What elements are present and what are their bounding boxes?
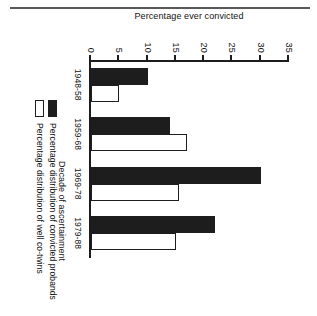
legend-item-probands: Percentage distribution of convicted pro… bbox=[48, 100, 58, 300]
bar-group bbox=[91, 216, 289, 250]
category-label: 1969-78 bbox=[73, 168, 83, 200]
bar bbox=[91, 134, 187, 151]
bar bbox=[91, 184, 179, 201]
bar-group bbox=[91, 68, 289, 102]
legend-label-probands: Percentage distribution of convicted pro… bbox=[48, 123, 58, 300]
y-tick bbox=[89, 55, 91, 60]
y-tick-label: 5 bbox=[114, 48, 124, 53]
y-tick bbox=[202, 55, 204, 60]
y-tick-label: 25 bbox=[227, 43, 237, 53]
bar bbox=[91, 167, 261, 184]
bar bbox=[91, 216, 215, 233]
y-tick bbox=[173, 55, 175, 60]
bar-group bbox=[91, 117, 289, 151]
bar bbox=[91, 68, 148, 85]
x-axis-title: Decade of ascertainment bbox=[57, 161, 67, 261]
y-axis-title: Percentage ever convicted bbox=[134, 11, 243, 21]
y-tick bbox=[145, 55, 147, 60]
y-tick bbox=[230, 55, 232, 60]
y-tick bbox=[258, 55, 260, 60]
legend-swatch-filled-icon bbox=[48, 100, 57, 117]
legend-item-cotwins: Percentage distribution of well co-twins bbox=[35, 100, 45, 300]
legend-label-cotwins: Percentage distribution of well co-twins bbox=[35, 123, 45, 274]
y-tick-label: 35 bbox=[284, 43, 294, 53]
category-label: 1959-68 bbox=[73, 118, 83, 150]
y-tick-label: 15 bbox=[170, 43, 180, 53]
chart-legend: Percentage distribution of convicted pro… bbox=[32, 100, 58, 300]
y-tick-label: 10 bbox=[142, 43, 152, 53]
rotated-figure-wrapper: 05101520253035 1948-581959-681969-781979… bbox=[13, 8, 305, 308]
category-label: 1979-88 bbox=[73, 217, 83, 249]
y-tick bbox=[287, 55, 289, 60]
bar bbox=[91, 85, 119, 102]
category-label: 1948-58 bbox=[73, 69, 83, 101]
y-tick bbox=[117, 55, 119, 60]
bar-group bbox=[91, 167, 289, 201]
y-tick-label: 0 bbox=[86, 48, 96, 53]
y-tick-label: 30 bbox=[255, 43, 265, 53]
bar bbox=[91, 233, 176, 250]
plot-area: 05101520253035 1948-581959-681969-781979… bbox=[89, 60, 289, 258]
bar bbox=[91, 117, 170, 134]
legend-swatch-hollow-icon bbox=[35, 100, 44, 117]
y-tick-label: 20 bbox=[199, 43, 209, 53]
chart-figure: 05101520253035 1948-581959-681969-781979… bbox=[13, 8, 305, 308]
y-axis-line bbox=[89, 60, 289, 62]
